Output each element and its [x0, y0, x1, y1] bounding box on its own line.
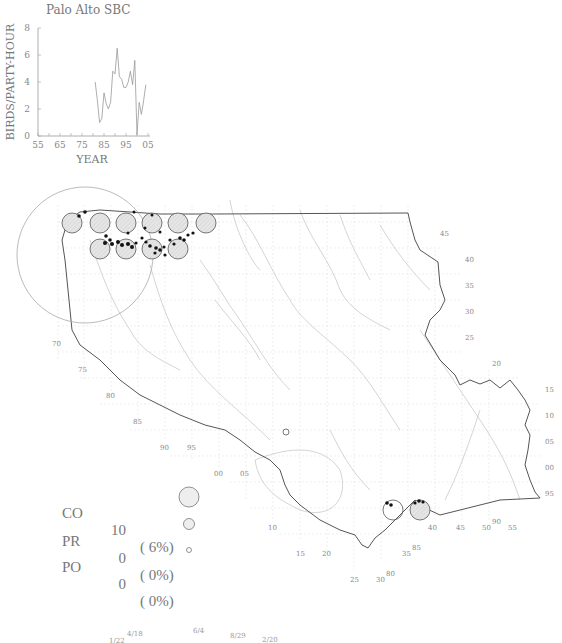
x-axis-label: YEAR [75, 153, 108, 166]
y-axis-label: BIRDS/PARTY-HOUR [4, 23, 17, 140]
svg-text:75: 75 [78, 366, 87, 374]
svg-text:90: 90 [492, 518, 501, 526]
svg-text:2: 2 [24, 104, 30, 114]
svg-text:75: 75 [76, 140, 88, 150]
svg-text:50: 50 [482, 524, 491, 532]
svg-text:95: 95 [120, 140, 132, 150]
small-circle-icon [187, 548, 192, 553]
svg-text:55: 55 [32, 140, 44, 150]
svg-text:80: 80 [386, 570, 395, 578]
svg-text:20: 20 [492, 360, 501, 368]
svg-text:8: 8 [24, 23, 30, 33]
svg-text:00: 00 [214, 470, 223, 478]
svg-text:90: 90 [160, 444, 169, 452]
large-circle-icon [179, 487, 199, 507]
svg-text:30: 30 [376, 576, 385, 584]
svg-text:40: 40 [428, 524, 437, 532]
svg-text:45: 45 [440, 230, 449, 238]
svg-text:10: 10 [268, 524, 277, 532]
data-line [95, 48, 146, 134]
svg-text:20: 20 [322, 550, 331, 558]
svg-text:05: 05 [545, 438, 554, 446]
medium-circle-icon [184, 519, 195, 530]
svg-text:35: 35 [465, 282, 474, 290]
svg-text:85: 85 [133, 418, 142, 426]
svg-text:25: 25 [465, 334, 474, 342]
county-map: 45 40 35 30 25 20 15 10 05 00 95 70 75 8… [0, 180, 562, 600]
svg-text:30: 30 [465, 308, 474, 316]
svg-text:05: 05 [240, 470, 249, 478]
svg-text:65: 65 [54, 140, 66, 150]
svg-text:15: 15 [296, 550, 305, 558]
grid-labels: 45 40 35 30 25 20 15 10 05 00 95 70 75 8… [52, 230, 554, 584]
svg-text:00: 00 [545, 464, 554, 472]
trend-chart: BIRDS/PARTY-HOUR 02468 556575859505 YEAR [0, 0, 160, 175]
svg-text:25: 25 [350, 576, 359, 584]
svg-text:15: 15 [545, 386, 554, 394]
svg-text:10: 10 [545, 412, 554, 420]
svg-text:05: 05 [142, 140, 154, 150]
svg-text:40: 40 [465, 256, 474, 264]
svg-text:55: 55 [508, 524, 517, 532]
legend-row-po: PO 0 ( 0%) [62, 542, 77, 627]
svg-text:0: 0 [24, 131, 30, 141]
svg-text:35: 35 [402, 550, 411, 558]
svg-text:85: 85 [412, 544, 421, 552]
svg-text:45: 45 [456, 524, 465, 532]
svg-text:95: 95 [187, 444, 196, 452]
svg-text:85: 85 [98, 140, 110, 150]
svg-text:6: 6 [24, 50, 30, 60]
svg-text:80: 80 [106, 392, 115, 400]
legend-symbols [170, 480, 210, 560]
svg-text:95: 95 [545, 490, 554, 498]
svg-text:70: 70 [52, 340, 61, 348]
svg-text:4: 4 [24, 77, 30, 87]
